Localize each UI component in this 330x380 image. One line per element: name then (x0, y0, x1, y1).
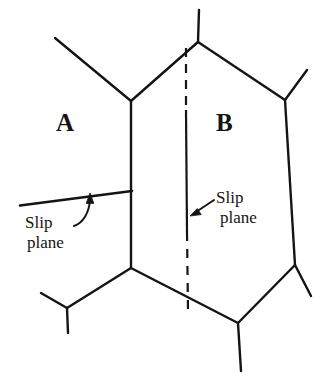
boundary-stub-upper-left (55, 38, 131, 101)
grain-label-b: B (216, 110, 233, 135)
boundary-stub-far-bottom-left (67, 308, 68, 333)
boundary-stub-upper-right (285, 70, 307, 100)
slip-plane-line-grain-a (20, 191, 132, 206)
boundary-stub-lower-right (295, 265, 311, 296)
slip-plane-left-label: Slip plane (25, 213, 64, 253)
boundary-stub-far-left (41, 293, 67, 308)
boundary-stub-bottom (238, 323, 241, 371)
slip-plane-right-label: Slip plane (216, 188, 257, 228)
boundary-stub-top (198, 10, 199, 42)
slip-plane-line-grain-b-middle-solid (186, 110, 187, 232)
slip-plane-right-label-line2: plane (216, 208, 257, 228)
grain-boundary-slip-plane-diagram: A B Slip plane Slip plane (0, 0, 330, 380)
boundary-stub-lower-left (67, 268, 131, 308)
slip-plane-left-label-line2: plane (25, 233, 64, 253)
slip-plane-left-arrowhead-icon (86, 193, 94, 203)
slip-plane-line-grain-b-lower-dashed (187, 232, 188, 311)
slip-plane-left-arrow-icon (74, 200, 90, 226)
slip-plane-right-label-line1: Slip (216, 188, 243, 207)
diagram-canvas (0, 0, 330, 380)
slip-plane-left-label-line1: Slip (25, 213, 52, 232)
grain-label-a: A (56, 110, 75, 135)
hexagon-grain-outline (131, 42, 295, 323)
